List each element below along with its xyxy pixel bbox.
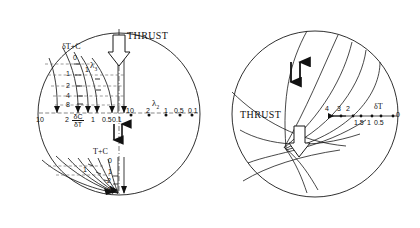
left-lambda3-tick-1: 1 [85, 66, 89, 73]
left-axis-label-0p1: 0.1 [112, 116, 122, 123]
left-lower-label-4: 4 [108, 185, 112, 192]
left-lower-label-0: 0 [108, 157, 112, 164]
left-axis-right-label-1: 1 [164, 107, 168, 114]
left-lambda2-label: λ2 [152, 99, 159, 110]
right-deltaT-label: δT [374, 103, 383, 111]
left-upper-tick-4: 4 [66, 92, 70, 99]
left-upper-curve-arrowheads [54, 106, 127, 113]
left-upper-tick-8: 8 [66, 101, 70, 108]
left-lower-family-label: T+C [93, 148, 108, 156]
left-axis-right-label-2: 2 [146, 107, 150, 114]
left-axis-label-2: 2 [65, 116, 69, 123]
fraction-denominator: δT [72, 121, 84, 128]
left-strike-slip-symbol [114, 124, 122, 140]
left-axis-label-1: 1 [91, 116, 95, 123]
right-axis-label-3: 3 [337, 105, 341, 112]
left-axis-label-10: 10 [36, 116, 44, 123]
right-axis-label-1p5: 1.5 [354, 119, 364, 126]
left-lambda3-label: λ3 [90, 61, 97, 72]
left-upper-tick-0: 0 [73, 54, 77, 61]
figure-root: THRUST δT+C 0 1 2 4 8 1 λ3 10 2 1 0.5 δC… [0, 0, 420, 228]
left-lower-label-2: 2 [107, 177, 111, 184]
right-axis-label-4: 4 [325, 105, 329, 112]
left-axis-right-label-0p1: 0.1 [188, 107, 198, 114]
right-axis-label-1: 1 [367, 119, 371, 126]
fraction-numerator: δC [72, 113, 84, 121]
left-fraction-dC-dT: δC δT [72, 113, 84, 129]
right-axis-label-2: 2 [346, 105, 350, 112]
left-lower-label-1b: 1 [108, 168, 112, 175]
right-axis-label-0p5: 0.5 [374, 119, 384, 126]
left-upper-tick-1: 1 [66, 70, 70, 77]
left-lower-label-1a: 1 [83, 166, 87, 173]
left-upper-family-label: δT+C [62, 43, 81, 51]
left-axis-right-label-10: 10 [126, 107, 134, 114]
left-axis-label-0p5: 0.5 [102, 116, 112, 123]
right-thrust-arrow [289, 126, 310, 157]
left-upper-tick-2: 2 [66, 82, 70, 89]
right-thrust-label: THRUST [240, 110, 281, 120]
left-thrust-label: THRUST [127, 31, 168, 41]
stereonet-drawing [0, 0, 420, 228]
right-axis-label-0: 0 [396, 111, 400, 118]
left-axis-right-label-0p5: 0.5 [174, 107, 184, 114]
